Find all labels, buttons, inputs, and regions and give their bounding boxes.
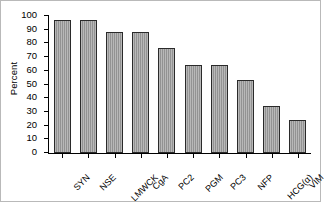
bar: [80, 20, 97, 153]
y-tick: 20: [44, 125, 49, 126]
y-tick-label: 70: [26, 51, 37, 61]
y-axis-line: [48, 16, 49, 154]
x-tick-label: PGM: [204, 173, 225, 194]
y-tick: 90: [44, 29, 49, 30]
y-tick: 60: [44, 70, 49, 71]
plot-area: 0102030405060708090100 SYNNSELMWCKCgAPC2…: [49, 16, 311, 153]
y-axis-title: Percent: [3, 1, 25, 156]
y-tick: 0: [44, 152, 49, 153]
bar: [54, 20, 71, 153]
x-tick: [193, 153, 194, 158]
bar: [237, 80, 254, 153]
y-tick: 10: [44, 138, 49, 139]
y-tick-label: 40: [26, 92, 37, 102]
x-tick: [246, 153, 247, 158]
x-tick: [298, 153, 299, 158]
y-tick-label: 60: [26, 65, 37, 75]
bar: [132, 32, 149, 153]
y-tick-label: 30: [26, 106, 37, 116]
y-tick-label: 50: [26, 79, 37, 89]
x-tick: [272, 153, 273, 158]
bar: [185, 65, 202, 153]
y-tick-label: 100: [21, 10, 37, 20]
x-tick-label: SYN: [73, 173, 92, 192]
y-axis-title-text: Percent: [9, 62, 20, 95]
x-tick-label: NSE: [99, 173, 118, 192]
x-tick: [62, 153, 63, 158]
x-tick: [219, 153, 220, 158]
y-tick: 80: [44, 42, 49, 43]
x-tick-label: PC3: [229, 173, 248, 192]
x-tick: [141, 153, 142, 158]
bar: [263, 106, 280, 153]
y-tick-label: 20: [26, 120, 37, 130]
y-tick-label: 10: [26, 134, 37, 144]
x-tick-label: PC2: [177, 173, 196, 192]
y-tick: 40: [44, 97, 49, 98]
y-tick: 50: [44, 84, 49, 85]
y-tick-label: 0: [32, 147, 37, 157]
x-tick: [167, 153, 168, 158]
bar: [289, 120, 306, 153]
x-tick: [115, 153, 116, 158]
bar: [106, 32, 123, 153]
x-tick: [88, 153, 89, 158]
y-tick: 100: [44, 15, 49, 16]
bar: [158, 48, 175, 153]
bar: [211, 65, 228, 153]
x-tick-label: NFP: [256, 173, 275, 192]
y-tick: 30: [44, 111, 49, 112]
y-tick-label: 90: [26, 24, 37, 34]
y-tick: 70: [44, 56, 49, 57]
y-tick-label: 80: [26, 38, 37, 48]
